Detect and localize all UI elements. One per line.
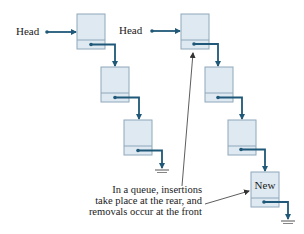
caption-line: take place at the rear, and <box>62 195 202 206</box>
new-node-label: New <box>255 179 276 191</box>
queue-caption: In a queue, insertions take place at the… <box>62 184 202 217</box>
ground-null-icon <box>281 221 295 224</box>
left-linked-list: Head <box>16 14 169 173</box>
head-pointer-left <box>45 30 76 34</box>
ground-null-icon <box>155 170 169 173</box>
caption-line: In a queue, insertions <box>62 184 202 195</box>
head-label-left: Head <box>16 25 40 37</box>
head-pointer-right <box>150 29 180 33</box>
annotation-arrow-front <box>182 53 193 186</box>
head-label-right: Head <box>119 24 143 36</box>
annotation-arrow-rear <box>205 191 249 204</box>
caption-line: removals occur at the front <box>62 206 202 217</box>
